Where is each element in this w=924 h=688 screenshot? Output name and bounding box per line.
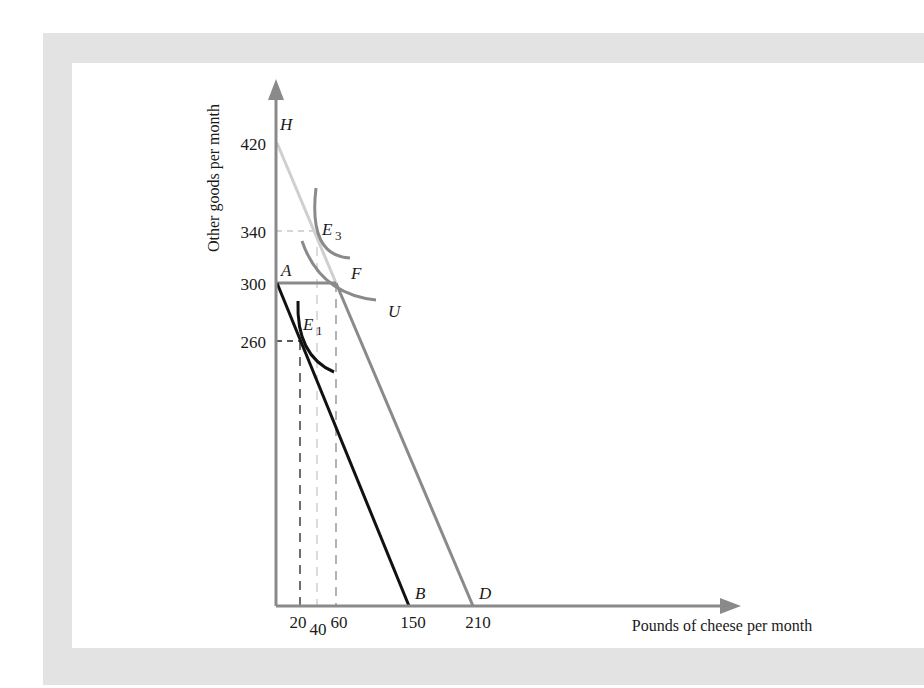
y-tick-260: 260 [241,333,267,352]
x-tick-40: 40 [310,620,327,639]
point-label-d: D [478,584,492,603]
point-label-e3: E 3 [321,220,342,243]
x-axis-arrow-icon [720,598,741,614]
x-tick-60: 60 [331,613,348,632]
y-tick-420: 420 [241,135,267,154]
budget-line-fd [336,283,473,606]
budget-line-ab [277,283,409,606]
economics-diagram: 420 340 300 260 20 40 60 150 210 Other g… [0,0,924,688]
guide-lines [276,231,336,606]
point-label-a: A [280,261,292,280]
y-tick-300: 300 [241,275,267,294]
x-axis-title: Pounds of cheese per month [632,617,812,635]
point-label-e1: E 1 [302,315,323,338]
x-tick-20: 20 [290,613,307,632]
point-label-f: F [350,264,362,283]
point-label-b: B [415,584,426,603]
x-tick-150: 150 [400,613,426,632]
point-label-h: H [279,115,294,134]
svg-text:E: E [321,220,333,239]
y-tick-340: 340 [241,223,267,242]
y-axis-title: Other goods per month [205,104,223,252]
y-axis-arrow-icon [268,79,284,100]
svg-text:3: 3 [335,228,342,243]
svg-text:1: 1 [316,323,323,338]
x-tick-210: 210 [465,613,491,632]
svg-text:E: E [302,315,314,334]
point-label-u: U [388,302,402,321]
